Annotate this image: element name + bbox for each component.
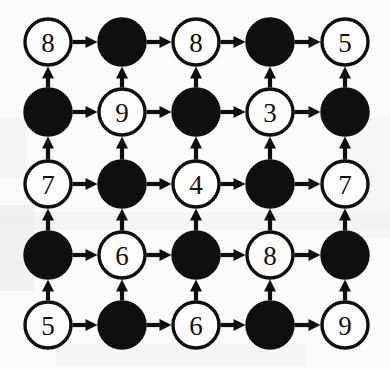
edge-right-r4c3 (295, 319, 321, 331)
node-circle (25, 232, 71, 278)
node-filled-r4c3[interactable] (247, 302, 293, 348)
node-open-r4c0[interactable]: 5 (25, 302, 71, 348)
node-filled-r1c0[interactable] (25, 89, 71, 135)
node-label-r2c2: 4 (189, 170, 203, 200)
node-open-r0c4[interactable]: 5 (322, 19, 368, 65)
edge-right-r3c3 (295, 249, 321, 261)
node-open-r0c2[interactable]: 8 (173, 19, 219, 65)
node-open-r3c1[interactable]: 6 (99, 232, 145, 278)
node-filled-r3c4[interactable] (322, 232, 368, 278)
edge-right-r0c3 (295, 36, 321, 48)
node-label-r0c4: 5 (338, 28, 352, 58)
node-circle (322, 89, 368, 135)
edge-right-r3c0 (73, 249, 98, 261)
node-open-r1c3[interactable]: 3 (247, 89, 293, 135)
edge-up-c3r4 (264, 280, 276, 301)
node-filled-r3c2[interactable] (173, 232, 219, 278)
edge-up-c4r2 (339, 137, 351, 160)
node-circle (99, 19, 145, 65)
node-circle (247, 302, 293, 348)
node-circle (25, 89, 71, 135)
edge-right-r0c2 (221, 36, 246, 48)
edge-up-c3r1 (264, 67, 276, 88)
node-label-r2c4: 7 (338, 170, 352, 200)
node-open-r1c1[interactable]: 9 (99, 89, 145, 135)
node-circle (247, 161, 293, 207)
node-filled-r0c3[interactable] (247, 19, 293, 65)
edge-up-c0r3 (42, 209, 54, 231)
node-filled-r1c4[interactable] (322, 89, 368, 135)
node-open-r2c2[interactable]: 4 (173, 161, 219, 207)
edge-up-c4r1 (339, 67, 351, 88)
node-label-r0c2: 8 (189, 28, 203, 58)
node-circle (173, 89, 219, 135)
node-label-r1c3: 3 (263, 98, 277, 128)
node-label-r4c0: 5 (41, 311, 55, 341)
node-label-r4c4: 9 (338, 311, 352, 341)
node-open-r3c3[interactable]: 8 (247, 232, 293, 278)
node-label-r4c2: 6 (189, 311, 203, 341)
edge-right-r1c0 (73, 106, 98, 118)
edge-right-r0c1 (147, 36, 172, 48)
node-filled-r4c1[interactable] (99, 302, 145, 348)
edge-up-c1r2 (116, 137, 128, 160)
diagram-canvas: 8859374768569 (0, 0, 390, 369)
edge-up-c4r4 (339, 280, 351, 301)
edge-right-r2c0 (73, 178, 98, 190)
node-open-r4c4[interactable]: 9 (322, 302, 368, 348)
node-circle (173, 232, 219, 278)
node-label-r3c3: 8 (263, 241, 277, 271)
node-open-r2c0[interactable]: 7 (25, 161, 71, 207)
node-filled-r2c3[interactable] (247, 161, 293, 207)
node-filled-r0c1[interactable] (99, 19, 145, 65)
node-label-r1c1: 9 (115, 98, 129, 128)
node-open-r2c4[interactable]: 7 (322, 161, 368, 207)
node-filled-r1c2[interactable] (173, 89, 219, 135)
node-circle (247, 19, 293, 65)
edge-right-r1c3 (295, 106, 321, 118)
node-label-r0c0: 8 (41, 28, 55, 58)
edge-up-c1r3 (116, 209, 128, 231)
edge-up-c1r1 (116, 67, 128, 88)
node-label-r3c1: 6 (115, 241, 129, 271)
edge-right-r2c3 (295, 178, 321, 190)
node-circle (99, 302, 145, 348)
node-circle (99, 161, 145, 207)
edge-up-c0r4 (42, 280, 54, 301)
edge-right-r1c2 (221, 106, 246, 118)
edge-up-c2r4 (190, 280, 202, 301)
edge-right-r2c2 (221, 178, 246, 190)
node-filled-r3c0[interactable] (25, 232, 71, 278)
edge-up-c2r2 (190, 137, 202, 160)
edge-up-c4r3 (339, 209, 351, 231)
node-circle (322, 232, 368, 278)
node-filled-r2c1[interactable] (99, 161, 145, 207)
node-open-r0c0[interactable]: 8 (25, 19, 71, 65)
edge-up-c2r3 (190, 209, 202, 231)
edge-up-c0r2 (42, 137, 54, 160)
edge-up-c3r2 (264, 137, 276, 160)
edge-right-r4c1 (147, 319, 172, 331)
edge-right-r4c2 (221, 319, 246, 331)
node-label-r2c0: 7 (41, 170, 55, 200)
edge-right-r2c1 (147, 178, 172, 190)
node-open-r4c2[interactable]: 6 (173, 302, 219, 348)
edge-right-r0c0 (73, 36, 98, 48)
edge-right-r3c2 (221, 249, 246, 261)
grid-graph: 8859374768569 (0, 0, 390, 369)
edge-up-c0r1 (42, 67, 54, 88)
edge-up-c2r1 (190, 67, 202, 88)
edge-right-r4c0 (73, 319, 98, 331)
edge-up-c3r3 (264, 209, 276, 231)
edge-up-c1r4 (116, 280, 128, 301)
edge-right-r1c1 (147, 106, 172, 118)
edge-right-r3c1 (147, 249, 172, 261)
